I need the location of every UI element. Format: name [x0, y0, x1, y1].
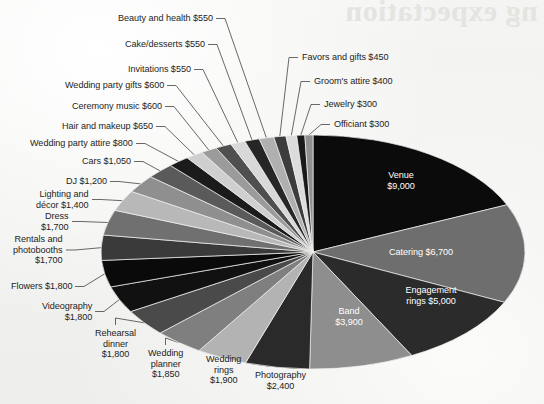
pie-inner-label-band: Band $3,900: [335, 306, 363, 328]
pie-label-rehearsal-dinner: Rehearsal dinner $1,800: [95, 328, 136, 360]
leader-line: [136, 144, 179, 162]
leader-line: [75, 274, 105, 287]
leader-line: [66, 248, 101, 250]
pie-label-officiant: Officiant $300: [334, 119, 389, 130]
leader-line: [194, 70, 238, 143]
pie-label-jewelry: Jewelry $300: [324, 99, 377, 110]
pie-slices: [101, 135, 525, 369]
leader-line: [156, 127, 194, 156]
pie-label-groom-s-attire: Groom's attire $400: [314, 76, 393, 87]
leader-line: [291, 82, 310, 136]
pie-label-cars: Cars $1,050: [82, 156, 131, 167]
pie-label-dress: Dress $1,700: [41, 211, 69, 232]
pie-label-lighting-and-d-cor: Lighting and décor $1,400: [36, 189, 89, 210]
pie-label-videography: Videography $1,800: [42, 301, 92, 322]
pie-label-rentals-and-photobooths: Rentals and photobooths $1,700: [13, 234, 63, 266]
leader-line: [110, 182, 141, 184]
leader-line: [165, 107, 209, 151]
pie-label-favors-and-gifts: Favors and gifts $450: [302, 52, 388, 63]
pie-label-photography: Photography $2,400: [255, 370, 306, 391]
pie-label-hair-and-makeup: Hair and makeup $650: [62, 121, 153, 132]
pie-inner-label-catering: Catering $6,700: [389, 247, 453, 258]
leader-line: [95, 300, 119, 312]
pie-inner-label-engagement-rings: Engagement rings $5,000: [405, 285, 456, 307]
leader-line: [301, 105, 320, 136]
pie-label-invitations: Invitations $550: [128, 64, 191, 75]
leader-line: [280, 58, 298, 137]
pie-label-ceremony-music: Ceremony music $600: [72, 101, 162, 112]
pie-label-cake-desserts: Cake/desserts $550: [125, 39, 205, 50]
pie-label-wedding-rings: Wedding rings $1,900: [206, 354, 241, 386]
pie-label-flowers: Flowers $1,800: [11, 281, 72, 292]
leader-line: [92, 200, 123, 201]
pie-label-dj: DJ $1,200: [66, 176, 107, 187]
pie-label-beauty-and-health: Beauty and health $550: [118, 13, 213, 24]
pie-label-wedding-party-gifts: Wedding party gifts $600: [65, 80, 164, 91]
leader-line: [72, 222, 108, 223]
pie-inner-label-venue: Venue $9,000: [387, 170, 415, 192]
pie-label-wedding-planner: Wedding planner $1,850: [148, 348, 183, 380]
pie-label-wedding-party-attire: Wedding party attire $800: [30, 138, 133, 149]
leader-line: [309, 125, 330, 136]
leader-line: [134, 162, 160, 171]
leader-line: [216, 19, 266, 138]
